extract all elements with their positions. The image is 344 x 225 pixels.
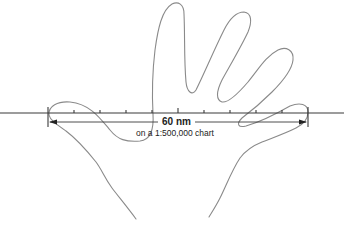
scale-label: on a 1:500,000 chart (136, 128, 214, 138)
arrowhead-left-icon (49, 120, 57, 125)
distance-label: 60 nm (158, 116, 195, 127)
hand-span-diagram (0, 0, 344, 225)
